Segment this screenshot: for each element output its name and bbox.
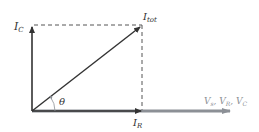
ir-label: IR xyxy=(132,117,143,130)
ic-label: IC xyxy=(13,20,24,34)
itot-vector xyxy=(32,27,140,111)
theta-arc-icon xyxy=(51,97,56,111)
phasor-diagram: IC Itot IR θ Vs, VR, VC xyxy=(0,0,259,132)
itot-label: Itot xyxy=(142,11,157,24)
voltage-axis-label: Vs, VR, VC xyxy=(204,96,248,107)
theta-label: θ xyxy=(59,96,65,107)
